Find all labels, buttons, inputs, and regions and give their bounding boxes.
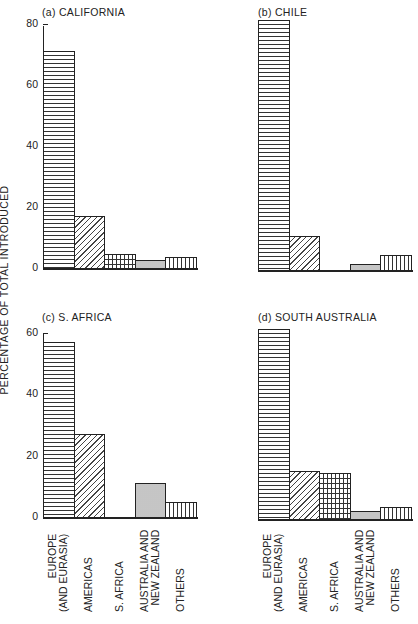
bar-australia-nz: [350, 264, 382, 270]
bar-s-africa: [319, 473, 351, 519]
x-category-line: OTHERS: [390, 568, 401, 612]
x-category-line: S. AFRICA: [329, 561, 340, 612]
y-tick-label: 60: [16, 326, 38, 338]
y-tick: [43, 333, 48, 334]
panel-title: (c) S. AFRICA: [42, 311, 112, 323]
bar-americas: [74, 216, 106, 268]
x-axis: [258, 270, 413, 272]
x-category-line: NEW ZEALAND: [150, 530, 161, 612]
bar-europe: [43, 342, 75, 517]
x-category-label: OTHERS: [175, 568, 186, 612]
panel-title: (a) CALIFORNIA: [42, 6, 125, 18]
bar-australia-nz: [350, 511, 382, 519]
y-tick-label: 40: [16, 387, 38, 399]
y-tick-label: 80: [16, 17, 38, 29]
x-category-label: AUSTRALIA ANDNEW ZEALAND: [139, 530, 161, 612]
bar-s-africa: [104, 254, 136, 268]
x-category-label: EUROPE(AND EURASIA): [47, 534, 69, 612]
y-tick: [43, 24, 48, 25]
x-category-label: AMERICAS: [298, 557, 309, 612]
x-category-label: EUROPE(AND EURASIA): [262, 534, 284, 612]
bar-europe: [258, 329, 290, 519]
bar-australia-nz: [135, 260, 167, 268]
bar-others: [165, 502, 197, 517]
bar-others: [165, 257, 197, 268]
bar-europe: [258, 20, 290, 270]
x-category-line: OTHERS: [175, 568, 186, 612]
x-category-label: OTHERS: [390, 568, 401, 612]
x-category-line: S. AFRICA: [114, 561, 125, 612]
y-tick-label: 40: [16, 139, 38, 151]
x-category-label: AMERICAS: [83, 557, 94, 612]
x-category-line: AMERICAS: [83, 557, 94, 612]
x-category-label: AUSTRALIA ANDNEW ZEALAND: [354, 530, 376, 612]
panel-title: (b) CHILE: [258, 6, 307, 18]
y-tick-label: 0: [16, 510, 38, 522]
bar-others: [380, 255, 412, 270]
bar-australia-nz: [135, 483, 167, 517]
panel-title: (d) SOUTH AUSTRALIA: [258, 311, 377, 323]
x-category-label: S. AFRICA: [329, 561, 340, 612]
bar-europe: [43, 51, 75, 268]
x-axis: [258, 519, 413, 521]
bar-others: [380, 507, 412, 519]
x-category-line: AMERICAS: [298, 557, 309, 612]
y-axis-label: PERCENTAGE OF TOTAL INTRODUCED: [0, 185, 10, 394]
bar-americas: [74, 434, 106, 517]
x-axis: [43, 517, 198, 519]
x-category-label: S. AFRICA: [114, 561, 125, 612]
x-category-line: (AND EURASIA): [58, 534, 69, 612]
x-category-line: (AND EURASIA): [273, 534, 284, 612]
y-tick-label: 60: [16, 78, 38, 90]
y-tick-label: 20: [16, 449, 38, 461]
bar-americas: [289, 236, 321, 270]
x-axis: [43, 268, 198, 270]
y-tick-label: 0: [16, 261, 38, 273]
bar-americas: [289, 471, 321, 519]
x-category-line: NEW ZEALAND: [365, 530, 376, 612]
y-tick-label: 20: [16, 200, 38, 212]
